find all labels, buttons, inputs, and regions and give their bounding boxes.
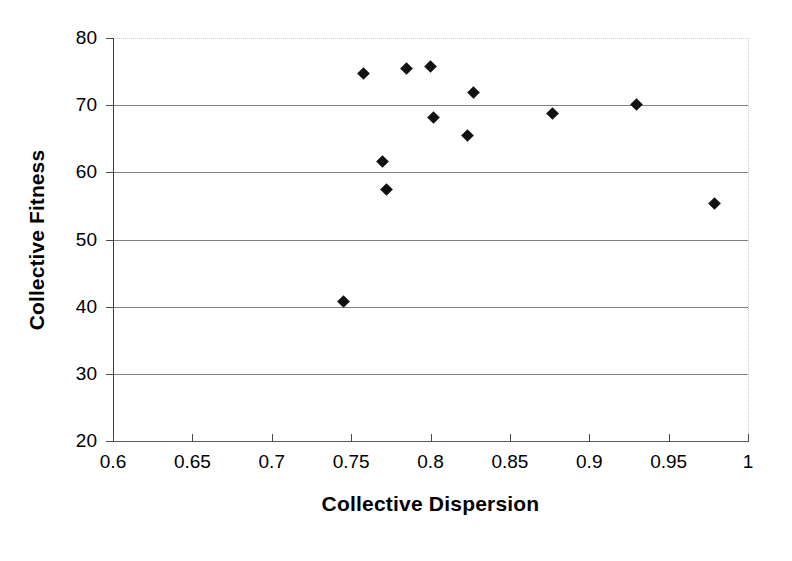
data-point <box>708 197 721 210</box>
x-tick-label-0.95: 0.95 <box>629 452 709 472</box>
y-axis-line <box>113 38 114 441</box>
data-point <box>357 67 370 80</box>
data-point <box>546 108 559 121</box>
x-tick-mark-0.65 <box>192 434 193 442</box>
data-point <box>380 183 393 196</box>
scatter-chart: Collective Fitness 20304050607080 0.60.6… <box>0 0 792 561</box>
x-tick-mark-0.8 <box>431 434 432 442</box>
gridline-y-80 <box>113 38 748 39</box>
data-point <box>461 129 474 142</box>
y-tick-label: 50 <box>35 230 97 249</box>
y-tick-label: 60 <box>35 162 97 181</box>
x-tick-mark-0.95 <box>669 434 670 442</box>
y-tick-label: 20 <box>35 431 97 450</box>
y-tick-label: 30 <box>35 364 97 383</box>
gridline-y-30 <box>113 374 748 375</box>
x-tick-label-0.75: 0.75 <box>311 452 391 472</box>
x-tick-mark-0.9 <box>589 434 590 442</box>
gridline-y-70 <box>113 105 748 106</box>
gridline-y-50 <box>113 240 748 241</box>
y-tick-label: 40 <box>35 297 97 316</box>
gridline-y-40 <box>113 307 748 308</box>
x-tick-label-0.7: 0.7 <box>232 452 312 472</box>
y-tick-label: 70 <box>35 95 97 114</box>
data-point <box>377 155 390 168</box>
gridline-y-60 <box>113 172 748 173</box>
x-tick-label-0.9: 0.9 <box>549 452 629 472</box>
data-point <box>400 63 413 76</box>
x-tick-label-1: 1 <box>708 452 788 472</box>
plot-area <box>113 38 748 441</box>
x-tick-mark-0.85 <box>510 434 511 442</box>
x-tick-mark-1 <box>748 434 749 442</box>
x-tick-label-0.65: 0.65 <box>152 452 232 472</box>
data-point <box>467 86 480 99</box>
data-point <box>424 60 437 73</box>
x-axis-title: Collective Dispersion <box>113 492 748 516</box>
x-tick-label-0.8: 0.8 <box>391 452 471 472</box>
data-point <box>631 98 644 111</box>
plot-frame-right <box>748 38 749 441</box>
data-point <box>427 111 440 124</box>
x-tick-mark-0.7 <box>272 434 273 442</box>
y-tick-label: 80 <box>35 28 97 47</box>
x-tick-mark-0.6 <box>113 434 114 442</box>
x-tick-label-0.85: 0.85 <box>470 452 550 472</box>
x-tick-mark-0.75 <box>351 434 352 442</box>
x-tick-label-0.6: 0.6 <box>73 452 153 472</box>
